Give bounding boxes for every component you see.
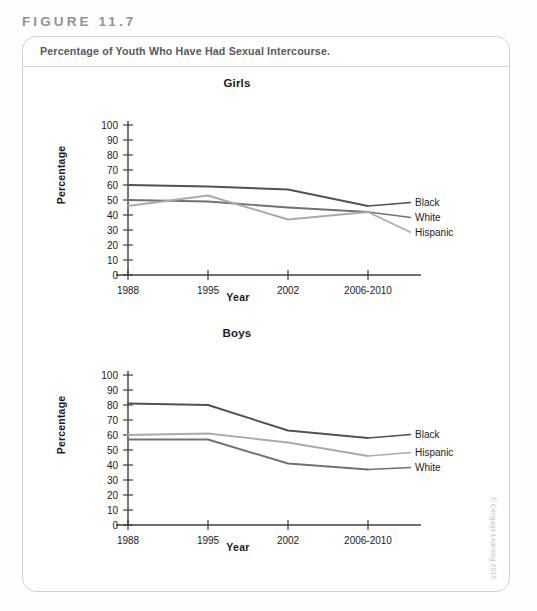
chart-boys: Boys Percentage Year 0102030405060708090… [23,323,511,573]
y-tick-label-girls: 100 [101,120,118,131]
chart-svg-boys: 01020304050607080901001988199520022006-2… [23,323,511,573]
legend-label-black-boys: Black [415,429,440,440]
series-line-hispanic-boys [128,434,368,457]
y-tick-label-girls: 50 [107,195,119,206]
y-tick-label-girls: 40 [107,210,119,221]
copyright-notice: © Cengage Learning 2015 [490,497,497,579]
x-tick-label-girls: 1988 [117,285,140,296]
chart-svg-girls: 01020304050607080901001988199520022006-2… [23,73,511,323]
y-tick-label-boys: 100 [101,370,118,381]
legend-leader-hispanic-boys [368,453,411,457]
legend-label-white-boys: White [415,462,441,473]
series-line-white-boys [128,440,368,470]
y-tick-label-girls: 10 [107,255,119,266]
legend-label-hispanic-girls: Hispanic [415,227,453,238]
x-tick-label-boys: 2006-2010 [344,535,392,546]
figure-card: Percentage of Youth Who Have Had Sexual … [22,36,510,592]
series-line-black-girls [128,185,368,206]
y-tick-label-girls: 60 [107,180,119,191]
x-tick-label-girls: 2002 [277,285,300,296]
legend-leader-black-girls [368,203,411,207]
figure-number-label: FIGURE 11.7 [22,14,136,29]
y-tick-label-girls: 70 [107,165,119,176]
legend-label-white-girls: White [415,212,441,223]
y-tick-label-boys: 80 [107,400,119,411]
x-tick-label-girls: 2006-2010 [344,285,392,296]
y-tick-label-boys: 40 [107,460,119,471]
y-tick-label-boys: 60 [107,430,119,441]
x-tick-label-boys: 2002 [277,535,300,546]
legend-label-hispanic-boys: Hispanic [415,447,453,458]
caption-bar: Percentage of Youth Who Have Had Sexual … [23,37,509,67]
y-tick-label-girls: 30 [107,225,119,236]
series-line-black-boys [128,404,368,439]
chart-girls: Girls Percentage Year 010203040506070809… [23,73,511,323]
figure-page: FIGURE 11.7 Percentage of Youth Who Have… [0,0,537,611]
legend-leader-white-boys [368,468,411,470]
x-tick-label-boys: 1988 [117,535,140,546]
figure-caption: Percentage of Youth Who Have Had Sexual … [40,45,330,57]
y-tick-label-boys: 20 [107,490,119,501]
y-tick-label-boys: 50 [107,445,119,456]
y-tick-label-girls: 80 [107,150,119,161]
y-tick-label-boys: 90 [107,385,119,396]
y-tick-label-girls: 20 [107,240,119,251]
legend-leader-black-boys [368,435,411,439]
y-tick-label-girls: 90 [107,135,119,146]
legend-label-black-girls: Black [415,197,440,208]
y-tick-label-boys: 10 [107,505,119,516]
y-tick-label-boys: 30 [107,475,119,486]
x-tick-label-girls: 1995 [197,285,220,296]
y-tick-label-boys: 70 [107,415,119,426]
x-tick-label-boys: 1995 [197,535,220,546]
y-tick-label-girls: 0 [112,270,118,281]
y-tick-label-boys: 0 [112,520,118,531]
